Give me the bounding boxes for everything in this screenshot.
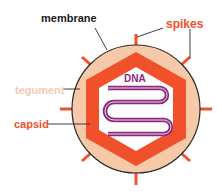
spike-top-left — [82, 57, 91, 65]
membrane-label: membrane — [41, 12, 97, 24]
capsid-label: capsid — [14, 118, 49, 130]
spike-bottom-right — [181, 153, 190, 161]
tegument-label: tegument — [15, 84, 65, 96]
spike-top-right — [181, 57, 190, 65]
spikes-label: spikes — [166, 18, 203, 30]
membrane-leader — [95, 28, 107, 50]
spikes-leader-1 — [137, 28, 163, 37]
dna-label: DNA — [124, 73, 146, 85]
spike-bottom-left — [82, 153, 91, 161]
